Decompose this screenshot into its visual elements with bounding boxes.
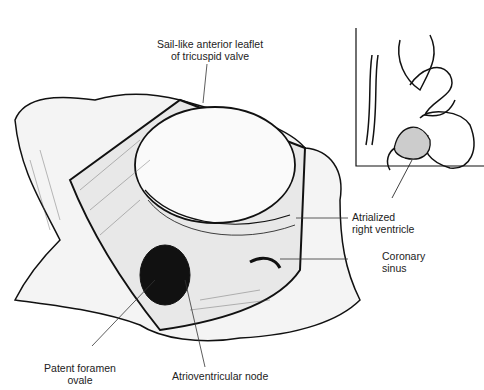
surgical-view xyxy=(15,94,360,341)
label-text: Atrialized xyxy=(352,211,414,223)
label-text: Sail-like anterior leaflet xyxy=(150,38,270,50)
label-text: ovale xyxy=(40,374,120,386)
label-av-node: Atrioventricular node xyxy=(172,370,268,382)
label-atrialized-ventricle: Atrialized right ventricle xyxy=(352,211,414,235)
label-text: sinus xyxy=(382,262,425,274)
label-anterior-leaflet: Sail-like anterior leaflet of tricuspid … xyxy=(150,38,270,62)
inset-heart-diagram xyxy=(356,28,484,198)
label-text: right ventricle xyxy=(352,223,414,235)
label-text: Patent foramen xyxy=(40,362,120,374)
label-text: Coronary xyxy=(382,250,425,262)
label-coronary-sinus: Coronary sinus xyxy=(382,250,425,274)
label-text: of tricuspid valve xyxy=(150,50,270,62)
label-text: Atrioventricular node xyxy=(172,370,268,382)
label-patent-foramen-ovale: Patent foramen ovale xyxy=(40,362,120,386)
